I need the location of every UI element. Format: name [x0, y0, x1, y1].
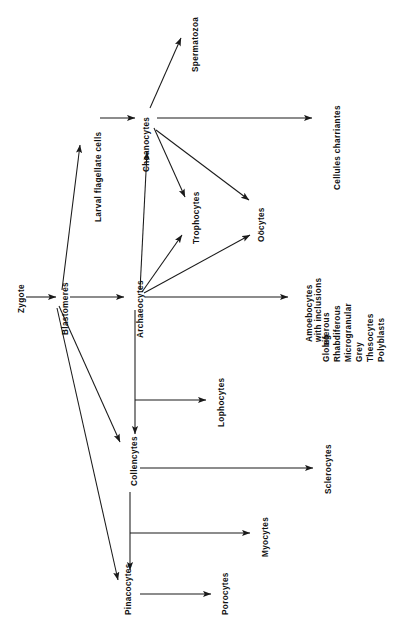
amoebocytes-item-rhabdiferous: Rhabdiferous — [333, 305, 342, 362]
node-cellules-charriantes: Cellules charriantes — [334, 105, 343, 190]
node-sclerocytes: Sclerocytes — [325, 444, 334, 494]
node-trophocytes: Trophocytes — [193, 191, 202, 244]
amoebocytes-item-globiferous: Globiferous — [322, 312, 331, 362]
edge-archaeocytes-to-choanocytes — [140, 152, 147, 290]
node-lophocytes: Lophocytes — [218, 378, 227, 427]
node-collencytes: Collencytes — [131, 436, 140, 486]
edge-blastomeres-to-larval-flagellate-cells — [62, 145, 80, 290]
edge-choanocytes-to-oocytes — [156, 130, 249, 200]
diagram-canvas: Zygote Blastomeres Larval flagellate cel… — [0, 0, 404, 628]
node-larval-flagellate-cells: Larval flagellate cells — [95, 132, 104, 222]
node-pinacocytes: Pinacocytes — [125, 563, 134, 615]
amoebocytes-heading: Amoebocytes with inclusions — [305, 278, 323, 342]
node-spermatozoa: Spermatozoa — [192, 17, 201, 72]
amoebocytes-item-polyblasts: Polyblasts — [377, 318, 386, 362]
edge-blastomeres-to-pinacocytes — [57, 308, 118, 580]
node-porocytes: Porocytes — [222, 572, 231, 615]
node-oocytes: Oöcytes — [258, 207, 267, 242]
node-myocytes: Myocytes — [262, 517, 271, 557]
amoebocytes-item-microgranular: Microgranular — [344, 303, 353, 362]
edge-choanocytes-to-spermatozoa — [150, 38, 181, 108]
amoebocytes-item-grey: Grey — [355, 342, 364, 362]
edge-choanocytes-to-trophocytes — [154, 128, 185, 197]
amoebocytes-heading-line-1: Amoebocytes — [305, 278, 314, 342]
node-archaeocytes: Archaeocytes — [137, 280, 146, 338]
amoebocytes-item-thesocytes: Thesocytes — [366, 313, 375, 362]
node-zygote: Zygote — [18, 284, 27, 313]
node-choanocytes: Choanocytes — [143, 117, 152, 172]
node-blastomeres: Blastomeres — [62, 282, 71, 335]
